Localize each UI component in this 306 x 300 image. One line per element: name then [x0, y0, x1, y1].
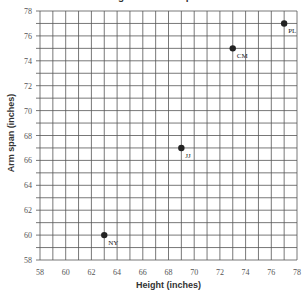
x-tick-label: 76: [267, 268, 275, 277]
data-point: [178, 145, 184, 151]
x-tick-label: 60: [62, 268, 70, 277]
y-tick-label: 72: [24, 82, 32, 91]
x-tick-label: 58: [36, 268, 44, 277]
chart-title: Height and Arm Span: [0, 0, 306, 2]
data-point-label: NY: [108, 239, 118, 247]
x-axis-label: Height (inches): [40, 280, 297, 290]
data-point: [230, 45, 236, 51]
x-tick-label: 62: [87, 268, 95, 277]
x-tick-label: 70: [190, 268, 198, 277]
y-tick-label: 64: [24, 181, 32, 190]
y-axis-label: Arm span (inches): [6, 78, 16, 188]
data-point-label: CM: [237, 52, 249, 60]
y-tick-label: 76: [24, 32, 32, 41]
data-point-label: JJ: [185, 152, 191, 160]
y-tick-label: 70: [24, 107, 32, 116]
x-tick-label: 78: [293, 268, 301, 277]
data-point: [281, 20, 287, 26]
x-tick-label: 66: [139, 268, 147, 277]
y-tick-label: 60: [24, 231, 32, 240]
y-tick-label: 58: [24, 256, 32, 265]
scatter-chart: Height and Arm Span 58606264666870727476…: [0, 0, 306, 300]
data-point: [101, 232, 107, 238]
y-tick-label: 78: [24, 7, 32, 16]
y-tick-label: 74: [24, 57, 32, 66]
data-point-label: PL: [288, 27, 296, 35]
x-tick-label: 68: [165, 268, 173, 277]
x-tick-label: 72: [216, 268, 224, 277]
x-tick-label: 74: [242, 268, 250, 277]
y-tick-label: 62: [24, 206, 32, 215]
plot-area: 5860626466687072747678586062646668707274…: [0, 0, 306, 300]
x-tick-label: 64: [113, 268, 121, 277]
y-tick-label: 66: [24, 156, 32, 165]
y-tick-label: 68: [24, 132, 32, 141]
